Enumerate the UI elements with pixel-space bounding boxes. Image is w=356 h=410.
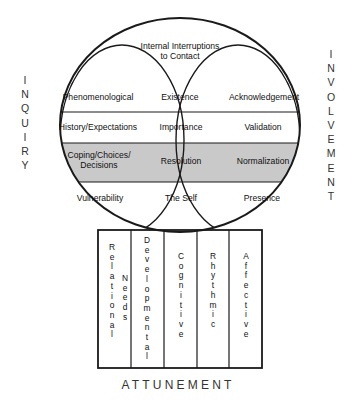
vertical-letter: l — [106, 330, 118, 340]
vertical-letter: c — [207, 320, 219, 330]
base-col-relational: Relational — [106, 243, 118, 340]
involvement-letter: I — [320, 47, 342, 61]
inquiry-letter: R — [14, 144, 36, 158]
right-lobe-ellipse — [176, 45, 300, 235]
side-label-inquiry: I N Q U I R Y — [14, 73, 36, 172]
side-label-involvement: I N V O L V E M E N T — [320, 47, 342, 203]
involvement-letter: N — [320, 175, 342, 189]
inquiry-letter: U — [14, 116, 36, 130]
involvement-letter: V — [320, 75, 342, 89]
diagram-root: I N Q U I R Y I N V O L V E M E N T Inte… — [0, 0, 356, 410]
outer-circle — [60, 18, 300, 232]
bottom-label-attunement: ATTUNEMENT — [0, 378, 356, 392]
involvement-letter: N — [320, 61, 342, 75]
base-col-developmental: Developmental — [141, 236, 153, 362]
involvement-letter: O — [320, 90, 342, 104]
inquiry-letter: Y — [14, 158, 36, 172]
inquiry-letter: Q — [14, 101, 36, 115]
involvement-letter: T — [320, 189, 342, 203]
involvement-letter: L — [320, 104, 342, 118]
vertical-letter: l — [141, 352, 153, 362]
inquiry-letter: N — [14, 87, 36, 101]
inquiry-letter: I — [14, 130, 36, 144]
base-col-rhythmic: Rhythmic — [207, 252, 219, 330]
venn-diagram-graphic — [0, 0, 356, 410]
vertical-letter: e — [175, 330, 187, 340]
inquiry-letter: I — [14, 73, 36, 87]
base-col-affective: Affective — [240, 252, 252, 339]
involvement-letter: E — [320, 132, 342, 146]
involvement-letter: V — [320, 118, 342, 132]
base-col-needs: Needs — [119, 274, 131, 323]
vertical-letter: e — [240, 330, 252, 340]
involvement-letter: M — [320, 146, 342, 160]
base-col-cognitive: Cognitive — [175, 252, 187, 339]
left-lobe-ellipse — [60, 45, 184, 235]
involvement-letter: E — [320, 161, 342, 175]
vertical-letter: s — [119, 313, 131, 323]
